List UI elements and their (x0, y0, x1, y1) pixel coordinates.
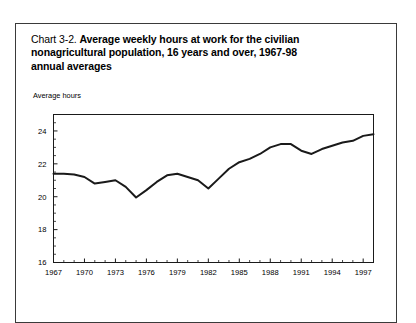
svg-text:1985: 1985 (231, 268, 248, 277)
svg-text:18: 18 (38, 225, 46, 234)
svg-text:1997: 1997 (355, 268, 372, 277)
svg-text:1973: 1973 (107, 268, 124, 277)
y-axis-tick-labels: 1618202224 (38, 127, 46, 268)
svg-text:16: 16 (38, 258, 46, 267)
data-series-line (54, 134, 374, 197)
x-axis-tick-labels: 1967197019731976197919821985198819911994… (45, 268, 372, 277)
svg-text:24: 24 (38, 127, 46, 136)
svg-text:1991: 1991 (293, 268, 310, 277)
plot-frame (54, 115, 374, 263)
svg-text:22: 22 (38, 160, 46, 169)
svg-text:1970: 1970 (76, 268, 93, 277)
svg-text:1994: 1994 (324, 268, 341, 277)
svg-text:1982: 1982 (200, 268, 217, 277)
svg-text:1979: 1979 (169, 268, 186, 277)
svg-text:1967: 1967 (45, 268, 62, 277)
y-axis-ticks (54, 115, 58, 263)
x-axis-ticks (54, 259, 374, 263)
svg-text:1976: 1976 (138, 268, 155, 277)
svg-text:1988: 1988 (262, 268, 279, 277)
svg-text:20: 20 (38, 193, 46, 202)
